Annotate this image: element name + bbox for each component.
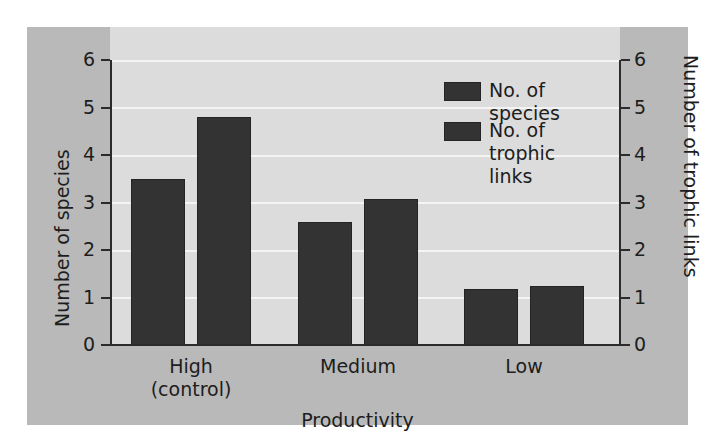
- right-axis-tick: [621, 344, 630, 346]
- x-axis-line: [110, 344, 621, 346]
- right-axis-tick-label: 0: [634, 335, 664, 354]
- x-category-label: Medium: [268, 355, 448, 378]
- left-axis-tick: [101, 59, 110, 61]
- x-category-label-line: Medium: [268, 355, 448, 378]
- bar: [131, 179, 185, 345]
- right-axis-tick-label: 5: [634, 98, 664, 117]
- right-axis-tick: [621, 202, 630, 204]
- left-axis-tick: [101, 344, 110, 346]
- chart-panel: 0123456 0123456 Number of species Number…: [27, 27, 688, 425]
- figure-canvas: 0123456 0123456 Number of species Number…: [0, 0, 707, 448]
- x-category-label: Low: [434, 355, 614, 378]
- x-category-label: High(control): [101, 355, 281, 401]
- legend-swatch: [444, 122, 481, 141]
- left-axis-tick: [101, 249, 110, 251]
- left-axis-tick: [101, 202, 110, 204]
- x-category-label-line: Low: [434, 355, 614, 378]
- x-category-label-line: High: [101, 355, 281, 378]
- right-axis-tick: [621, 297, 630, 299]
- right-axis-tick: [621, 154, 630, 156]
- legend-label: No. of trophic links: [489, 119, 555, 188]
- left-axis-tick: [101, 154, 110, 156]
- right-axis-tick-label: 2: [634, 240, 664, 259]
- x-category-label-line: (control): [101, 378, 281, 401]
- right-axis-tick-label: 3: [634, 193, 664, 212]
- right-axis-tick-label: 1: [634, 288, 664, 307]
- left-axis-tick: [101, 107, 110, 109]
- right-axis-title: Number of trophic links: [680, 55, 702, 278]
- right-axis-tick: [621, 249, 630, 251]
- right-axis-tick-label: 6: [634, 50, 664, 69]
- right-axis-tick: [621, 59, 630, 61]
- bar: [197, 117, 251, 345]
- left-axis-line: [110, 60, 112, 346]
- bar: [530, 286, 584, 345]
- bar: [464, 289, 518, 345]
- gridline-6: [110, 60, 620, 62]
- bar: [298, 222, 352, 346]
- legend-swatch: [444, 82, 481, 101]
- left-axis-title: Number of species: [51, 149, 73, 327]
- left-axis-tick-label: 6: [65, 50, 95, 69]
- left-axis-tick-label: 5: [65, 98, 95, 117]
- left-axis-tick-label: 0: [65, 335, 95, 354]
- right-axis-tick-label: 4: [634, 145, 664, 164]
- bar: [364, 199, 418, 345]
- x-axis-title: Productivity: [27, 409, 688, 431]
- left-axis-tick: [101, 297, 110, 299]
- right-axis-tick: [621, 107, 630, 109]
